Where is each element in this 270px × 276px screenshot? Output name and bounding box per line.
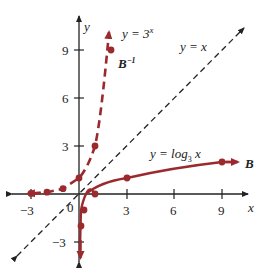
x-tick-9: 9 [218,204,225,217]
y-tick-3: 3 [62,140,69,153]
x-axis-label: x [248,201,254,214]
b-inverse-superscript: −1 [127,56,136,65]
function-graph [0,0,270,276]
b-inverse-main: B [118,56,127,71]
y-tick-9: 9 [62,44,69,57]
log-curve-b [78,159,238,258]
x-tick-6: 6 [170,204,177,217]
x-tick-0: 0 [67,201,74,214]
y-tick-6: 6 [62,92,69,105]
exp-equation-text: y = 3 [122,26,150,41]
exp-curve-b-inverse [28,32,115,197]
b-inverse-label: B−1 [118,57,136,70]
x-tick-3: 3 [123,204,130,217]
exp-equation-superscript: x [150,25,154,35]
y-tick-neg3: −3 [52,236,66,249]
log-equation-prefix: y = log [150,146,188,161]
y-axis-label: y [84,20,90,33]
b-label: B [245,157,254,170]
exp-equation-label: y = 3x [122,26,154,40]
x-tick-neg3: −3 [20,204,34,217]
log-equation-label: y = log3 x [150,147,201,164]
log-equation-suffix: x [192,146,201,161]
identity-equation-label: y = x [180,40,207,53]
